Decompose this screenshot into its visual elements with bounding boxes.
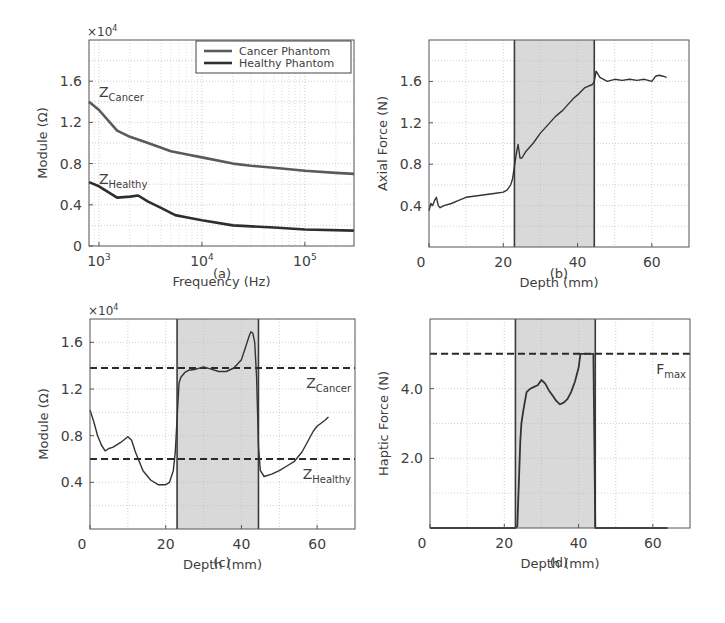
x-tick-label: 103	[87, 252, 111, 269]
y-axis-label: Haptic Force (N)	[376, 371, 391, 476]
caption-d: (d)	[529, 555, 589, 570]
x-tick-label: 0	[417, 254, 426, 270]
figure: 10310410500.40.81.21.6×104Frequency (Hz)…	[0, 0, 725, 623]
x-tick-label: 105	[293, 252, 317, 269]
y-tick-label: 1.2	[61, 381, 83, 397]
chart-a-impedance-vs-frequency: 10310410500.40.81.21.6×104Frequency (Hz)…	[35, 24, 354, 289]
x-tick-label: 60	[644, 535, 662, 551]
caption-c: (c)	[192, 555, 252, 570]
y-tick-label: 0	[73, 238, 82, 254]
chart-c-module-vs-depth: ZCancerZHealthy02040600.40.81.21.6×104De…	[36, 303, 355, 572]
x-tick-label: 20	[494, 254, 512, 270]
y-tick-label: 0.8	[400, 156, 422, 172]
y-tick-label: 0.8	[60, 156, 82, 172]
x-tick-label: 60	[643, 254, 661, 270]
y-tick-label: 1.6	[60, 73, 82, 89]
x-tick-label: 60	[308, 536, 326, 552]
x-tick-label: 20	[495, 535, 513, 551]
x-tick-label: 40	[570, 535, 588, 551]
y-tick-label: 1.6	[400, 73, 422, 89]
x-tick-label: 0	[418, 535, 427, 551]
y-tick-label: 1.2	[60, 114, 82, 130]
chart-b-axial-force: 02040600.40.81.21.6Depth (mm)Axial Force…	[375, 40, 689, 290]
y-tick-label: 1.2	[400, 115, 422, 131]
y-tick-label: 0.4	[61, 474, 83, 490]
legend: Cancer PhantomHealthy Phantom	[196, 41, 351, 73]
caption-a: (a)	[192, 266, 252, 281]
y-axis-label: Module (Ω)	[36, 388, 51, 459]
y-tick-label: 0.4	[60, 197, 82, 213]
y-tick-label: 4.0	[401, 381, 423, 397]
y-tick-label: 0.4	[400, 198, 422, 214]
x-tick-label: 0	[78, 536, 87, 552]
y-axis-label: Module (Ω)	[35, 107, 50, 178]
legend-entry-healthy-phantom: Healthy Phantom	[239, 57, 334, 70]
y-tick-label: 2.0	[401, 450, 423, 466]
y-tick-label: 0.8	[61, 428, 83, 444]
y-axis-label: Axial Force (N)	[375, 96, 390, 191]
x-tick-label: 20	[157, 536, 175, 552]
y-tick-label: 1.6	[61, 334, 83, 350]
y-multiplier: ×104	[88, 303, 118, 318]
tumor-region-shade	[177, 319, 258, 529]
caption-b: (b)	[529, 266, 589, 281]
chart-d-haptic-force: Fmax02040602.04.0Depth (mm)Haptic Force …	[376, 319, 690, 571]
y-multiplier: ×104	[87, 24, 117, 39]
x-tick-label: 40	[233, 536, 251, 552]
